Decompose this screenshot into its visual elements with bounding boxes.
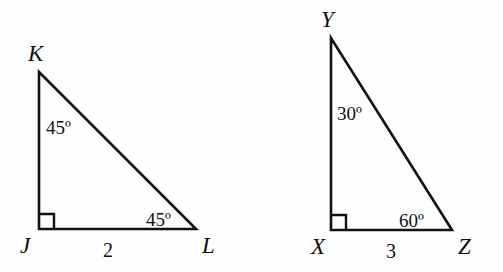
triangle-jkl-outline <box>39 72 196 229</box>
triangle-xyz-outline <box>331 38 452 230</box>
geometry-figure: J K L 45º 45º 2 X Y Z 30º 60º 3 <box>0 0 503 272</box>
triangle-xyz-shape <box>331 38 452 230</box>
vertex-label-z: Z <box>458 235 471 258</box>
angle-label-z-60: 60º <box>399 211 424 230</box>
vertex-label-j: J <box>20 234 30 257</box>
vertex-label-y: Y <box>321 8 334 31</box>
angle-label-l-45: 45º <box>146 210 171 229</box>
side-length-label-jl: 2 <box>103 240 113 260</box>
right-angle-mark-x <box>331 215 346 230</box>
vertex-label-k: K <box>28 42 43 65</box>
right-angle-mark-j <box>39 214 54 229</box>
triangles-canvas <box>0 0 503 272</box>
angle-label-k-45: 45º <box>46 118 71 137</box>
angle-label-y-30: 30º <box>337 104 362 123</box>
triangle-jkl-shape <box>39 72 196 229</box>
side-length-label-xz: 3 <box>386 241 396 261</box>
vertex-label-x: X <box>311 235 325 258</box>
vertex-label-l: L <box>202 234 215 257</box>
